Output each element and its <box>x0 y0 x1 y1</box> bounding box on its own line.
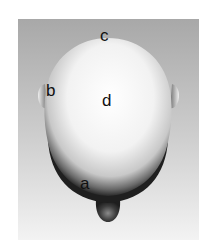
label-b: b <box>46 81 55 100</box>
label-d: d <box>102 91 111 110</box>
head-illustration: c b d a <box>0 0 217 252</box>
label-c: c <box>100 26 109 45</box>
skull <box>44 38 171 196</box>
label-a: a <box>80 174 90 193</box>
head-diagram: c b d a <box>0 0 217 252</box>
